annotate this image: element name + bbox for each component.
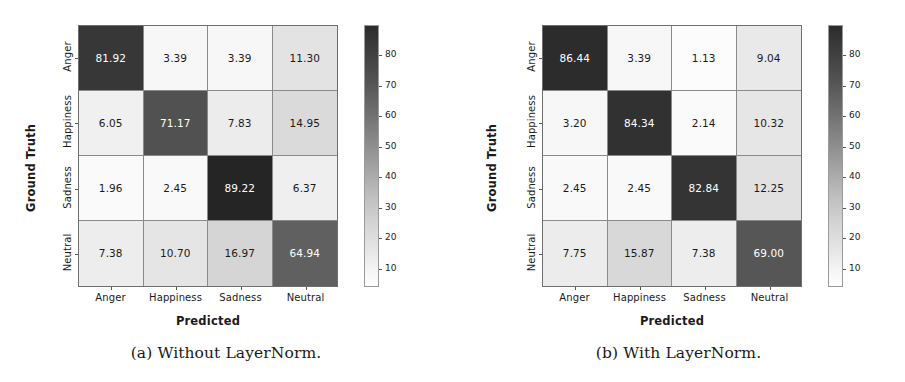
matrix-cell-value: 1.13 <box>692 53 716 64</box>
matrix-cell-value: 89.22 <box>224 183 255 194</box>
matrix-cell: 3.20 <box>543 91 608 156</box>
matrix-cell-value: 6.37 <box>293 183 317 194</box>
colorbar-tick-label: 40 <box>849 171 860 181</box>
matrix-cell: 2.14 <box>672 91 737 156</box>
colorbar-tick-label: 30 <box>385 202 396 212</box>
matrix-cell-value: 14.95 <box>289 118 320 129</box>
matrix-cell-value: 3.39 <box>627 53 651 64</box>
matrix-cell: 7.75 <box>543 221 608 286</box>
matrix-cell: 3.39 <box>608 26 673 91</box>
colorbar-tick-mark <box>379 238 382 239</box>
x-tick-label: Neutral <box>261 292 350 303</box>
colorbar-tick-mark <box>379 177 382 178</box>
matrix-cell: 11.30 <box>273 26 338 91</box>
colorbar-b <box>828 25 843 287</box>
matrix-cell-value: 71.17 <box>160 118 191 129</box>
y-tick-label: Anger <box>527 24 538 90</box>
matrix-cell: 69.00 <box>737 221 802 286</box>
matrix-cell: 84.34 <box>608 91 673 156</box>
y-tick-label: Happiness <box>527 89 538 155</box>
matrix-cell-value: 82.84 <box>688 183 719 194</box>
colorbar-a <box>364 25 379 287</box>
matrix-cell-value: 6.05 <box>99 118 123 129</box>
x-tick-mark <box>176 287 177 290</box>
matrix-cell-value: 9.04 <box>757 53 781 64</box>
colorbar-tick-label: 60 <box>849 110 860 120</box>
matrix-cell-value: 7.38 <box>692 248 716 259</box>
x-axis-label-a: Predicted <box>78 314 338 328</box>
matrix-cell: 15.87 <box>608 221 673 286</box>
matrix-cell: 2.45 <box>543 156 608 221</box>
matrix-cell-value: 69.00 <box>753 248 784 259</box>
matrix-cell-value: 15.87 <box>624 248 655 259</box>
y-tick-label: Sadness <box>63 155 74 221</box>
colorbar-tick-mark <box>843 177 846 178</box>
colorbar-tick-label: 20 <box>385 232 396 242</box>
matrix-cell-value: 7.38 <box>99 248 123 259</box>
matrix-cell-value: 10.70 <box>160 248 191 259</box>
colorbar-tick-mark <box>843 269 846 270</box>
x-axis-label-b: Predicted <box>542 314 802 328</box>
matrix-cell: 2.45 <box>608 156 673 221</box>
y-tick-label: Anger <box>63 24 74 90</box>
matrix-cell-value: 3.39 <box>163 53 187 64</box>
x-tick-mark <box>575 287 576 290</box>
x-tick-label: Neutral <box>725 292 814 303</box>
colorbar-tick-label: 70 <box>849 80 860 90</box>
matrix-cell: 64.94 <box>273 221 338 286</box>
matrix-cell: 12.25 <box>737 156 802 221</box>
matrix-cell: 3.39 <box>208 26 273 91</box>
matrix-cell-value: 2.45 <box>627 183 651 194</box>
matrix-cell-value: 2.45 <box>563 183 587 194</box>
colorbar-tick-label: 60 <box>385 110 396 120</box>
matrix-cell: 10.32 <box>737 91 802 156</box>
colorbar-tick-label: 10 <box>385 263 396 273</box>
y-tick-label: Happiness <box>63 89 74 155</box>
colorbar-tick-mark <box>843 147 846 148</box>
matrix-cell: 82.84 <box>672 156 737 221</box>
subfigure-without-layernorm: Ground Truth AngerHappinessSadnessNeutra… <box>0 0 452 382</box>
matrix-cell-value: 81.92 <box>95 53 126 64</box>
colorbar-tick-mark <box>843 86 846 87</box>
colorbar-tick-label: 20 <box>849 232 860 242</box>
matrix-cell: 86.44 <box>543 26 608 91</box>
y-axis-label-a: Ground Truth <box>24 102 38 212</box>
matrix-cell-value: 10.32 <box>753 118 784 129</box>
matrix-cell-value: 3.39 <box>228 53 252 64</box>
colorbar-tick-mark <box>379 269 382 270</box>
colorbar-tick-mark <box>843 55 846 56</box>
x-tick-mark <box>306 287 307 290</box>
colorbar-tick-mark <box>379 208 382 209</box>
y-tick-label: Neutral <box>63 220 74 286</box>
x-tick-mark <box>241 287 242 290</box>
subfigure-with-layernorm: Ground Truth AngerHappinessSadnessNeutra… <box>452 0 905 382</box>
colorbar-tick-mark <box>379 116 382 117</box>
matrix-cell: 6.37 <box>273 156 338 221</box>
matrix-cell: 81.92 <box>79 26 144 91</box>
matrix-cell: 10.70 <box>144 221 209 286</box>
matrix-cell-value: 64.94 <box>289 248 320 259</box>
matrix-cell-value: 7.83 <box>228 118 252 129</box>
matrix-cell-value: 2.45 <box>163 183 187 194</box>
matrix-cell: 9.04 <box>737 26 802 91</box>
colorbar-tick-label: 40 <box>385 171 396 181</box>
figure-row: Ground Truth AngerHappinessSadnessNeutra… <box>0 0 905 382</box>
x-tick-mark <box>770 287 771 290</box>
colorbar-tick-label: 10 <box>849 263 860 273</box>
matrix-cell: 1.13 <box>672 26 737 91</box>
colorbar-tick-label: 70 <box>385 80 396 90</box>
matrix-cell: 1.96 <box>79 156 144 221</box>
matrix-cell-value: 12.25 <box>753 183 784 194</box>
x-tick-mark <box>640 287 641 290</box>
matrix-cell: 14.95 <box>273 91 338 156</box>
matrix-cell-value: 2.14 <box>692 118 716 129</box>
matrix-cell: 6.05 <box>79 91 144 156</box>
colorbar-tick-mark <box>843 116 846 117</box>
colorbar-tick-mark <box>379 147 382 148</box>
matrix-cell: 3.39 <box>144 26 209 91</box>
colorbar-tick-label: 50 <box>849 141 860 151</box>
matrix-cell: 7.83 <box>208 91 273 156</box>
colorbar-tick-mark <box>379 55 382 56</box>
x-tick-mark <box>111 287 112 290</box>
matrix-cell-value: 11.30 <box>289 53 320 64</box>
